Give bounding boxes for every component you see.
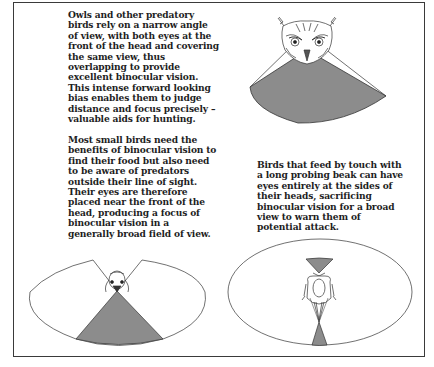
small-bird-head-icon bbox=[105, 271, 128, 292]
illustrations bbox=[0, 0, 434, 367]
owl-binocular-sector bbox=[250, 50, 386, 123]
probing-bird-rear-binocular-zone bbox=[306, 258, 333, 273]
small-bird-binocular-sector bbox=[76, 291, 163, 345]
probing-bird-front-binocular-zone bbox=[312, 322, 327, 346]
owl-head-icon bbox=[278, 17, 336, 64]
probing-bird-head-icon bbox=[302, 273, 336, 322]
